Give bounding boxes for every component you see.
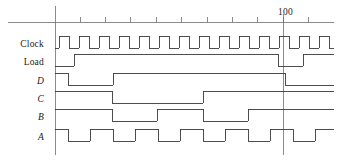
waveform-canvas: [0, 0, 338, 161]
signal-label-clock: Clock: [0, 40, 44, 50]
waveform-c: [55, 91, 334, 103]
signal-label-d: D: [0, 77, 44, 87]
waveform-b: [55, 109, 334, 121]
waveform-clock: [55, 36, 334, 48]
time-marker-100-label: 100: [278, 8, 293, 18]
waveform-load: [55, 54, 334, 66]
waveform-d: [55, 73, 334, 85]
timing-diagram-figure: ClockLoadDCBA 100: [0, 0, 338, 161]
signal-label-load: Load: [0, 58, 44, 68]
signal-label-c: C: [0, 95, 44, 105]
signal-label-a: A: [0, 133, 44, 143]
waveform-a: [55, 129, 334, 141]
signal-label-b: B: [0, 113, 44, 123]
signal-waveform-group: [55, 36, 334, 141]
